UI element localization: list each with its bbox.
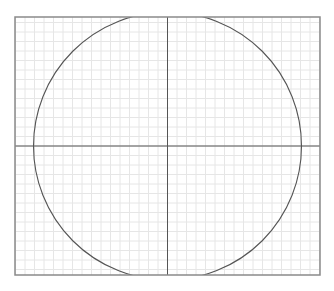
circle-grid-diagram — [0, 0, 334, 291]
